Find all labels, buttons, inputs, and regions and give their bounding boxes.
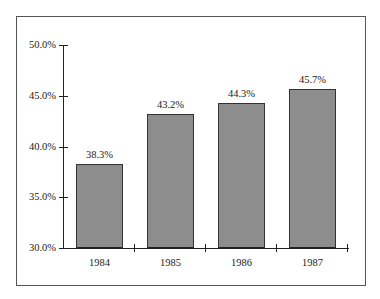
bar-value-label: 38.3%	[70, 149, 130, 161]
y-tick-label: 30.0%	[20, 242, 56, 254]
bar-value-label: 45.7%	[283, 74, 343, 86]
y-tick	[59, 197, 68, 198]
bar-value-label: 44.3%	[212, 88, 272, 100]
x-tick	[134, 244, 135, 252]
x-tick-label: 1984	[70, 257, 130, 269]
x-tick-label: 1985	[141, 257, 201, 269]
x-tick-label: 1987	[283, 257, 343, 269]
y-tick	[59, 248, 68, 249]
bar-value-label: 43.2%	[141, 99, 201, 111]
bar-1987	[289, 89, 336, 249]
y-tick-label: 35.0%	[20, 191, 56, 203]
x-tick	[205, 244, 206, 252]
bar-1984	[76, 164, 123, 249]
y-tick-label: 40.0%	[20, 141, 56, 153]
bar-1985	[147, 114, 194, 249]
x-tick	[276, 244, 277, 252]
y-tick-label: 45.0%	[20, 90, 56, 102]
y-tick	[59, 147, 68, 148]
y-tick	[59, 45, 68, 46]
x-tick	[347, 244, 348, 252]
y-tick-label: 50.0%	[20, 39, 56, 51]
y-tick	[59, 96, 68, 97]
x-tick-label: 1986	[212, 257, 272, 269]
bar-1986	[218, 103, 265, 249]
